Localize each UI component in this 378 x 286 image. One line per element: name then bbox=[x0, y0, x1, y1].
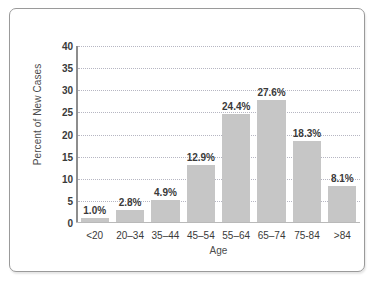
bar bbox=[222, 114, 250, 222]
bar bbox=[187, 165, 215, 222]
x-axis-tick-label: 65–74 bbox=[258, 230, 286, 241]
x-axis-tick-label: >84 bbox=[334, 230, 351, 241]
bar-value-label: 27.6% bbox=[257, 87, 285, 98]
y-axis-tick-label: 30 bbox=[62, 85, 73, 96]
bar-value-label: 12.9% bbox=[187, 152, 215, 163]
bar bbox=[81, 218, 109, 222]
bar-value-label: 24.4% bbox=[222, 101, 250, 112]
bar-chart: Percent of New Cases 0510152025303540 1.… bbox=[10, 9, 366, 273]
bar-value-label: 1.0% bbox=[83, 205, 106, 216]
x-axis-tick-label: 20–34 bbox=[116, 230, 144, 241]
plot-area: 0510152025303540 1.0%2.8%4.9%12.9%24.4%2… bbox=[77, 46, 360, 223]
y-axis-tick-label: 0 bbox=[67, 218, 73, 229]
y-axis-tick-label: 40 bbox=[62, 41, 73, 52]
y-axis-tick-label: 10 bbox=[62, 173, 73, 184]
x-axis-tick-label: <20 bbox=[86, 230, 103, 241]
gridline bbox=[78, 90, 360, 91]
y-axis-tick-label: 25 bbox=[62, 107, 73, 118]
bar bbox=[116, 210, 144, 222]
y-axis-tick-label: 15 bbox=[62, 151, 73, 162]
y-axis-tick-label: 35 bbox=[62, 63, 73, 74]
x-axis-tick-label: 55–64 bbox=[222, 230, 250, 241]
gridline bbox=[78, 68, 360, 69]
x-axis-tick-label: 35–44 bbox=[152, 230, 180, 241]
x-axis-line bbox=[76, 222, 360, 223]
bar bbox=[328, 186, 356, 222]
bar bbox=[293, 141, 321, 222]
y-axis-tick-label: 5 bbox=[67, 195, 73, 206]
bar-value-label: 4.9% bbox=[154, 187, 177, 198]
bar-value-label: 18.3% bbox=[293, 128, 321, 139]
bar-value-label: 8.1% bbox=[331, 173, 354, 184]
y-axis-tick-label: 20 bbox=[62, 129, 73, 140]
x-axis-title: Age bbox=[77, 245, 360, 256]
x-axis-tick-label: 45–54 bbox=[187, 230, 215, 241]
gridline bbox=[78, 46, 360, 47]
figure-frame: Percent of New Cases 0510152025303540 1.… bbox=[9, 8, 365, 272]
gridline bbox=[78, 112, 360, 113]
y-axis-title: Percent of New Cases bbox=[32, 30, 43, 200]
x-axis-tick-label: 75-84 bbox=[294, 230, 320, 241]
bar bbox=[257, 100, 285, 222]
bar-value-label: 2.8% bbox=[119, 197, 142, 208]
bar bbox=[151, 200, 179, 222]
